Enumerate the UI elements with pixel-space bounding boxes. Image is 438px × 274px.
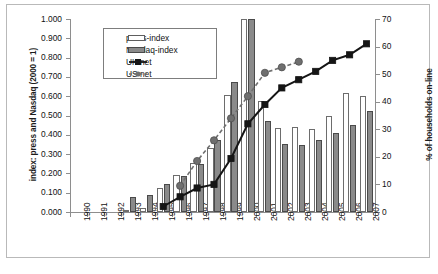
bar-nasdaq-index-2005 bbox=[333, 133, 339, 212]
bar-press-index-2004 bbox=[309, 129, 315, 212]
bar-press-index-2006 bbox=[343, 93, 349, 212]
bar-nasdaq-index-2003 bbox=[299, 145, 305, 212]
y-axis-right-tick bbox=[376, 74, 380, 75]
y-axis-left-tick bbox=[66, 58, 70, 59]
y-axis-right-tick-label: 20 bbox=[382, 151, 412, 161]
y-axis-left-tick-label: 0.400 bbox=[18, 129, 62, 139]
legend-key-press-index bbox=[128, 32, 146, 44]
y-axis-right-tick bbox=[376, 47, 380, 48]
legend-key-uk-net bbox=[128, 56, 146, 68]
chart-legend: press-index Nasdaq-index UK net bbox=[103, 28, 217, 79]
bar-nasdaq-index-2002 bbox=[282, 144, 288, 212]
y-axis-right-tick bbox=[376, 102, 380, 103]
y-axis-right-tick-label: 10 bbox=[382, 179, 412, 189]
y-axis-right-tick-label: 60 bbox=[382, 41, 412, 51]
bar-nasdaq-index-1994 bbox=[147, 195, 153, 212]
y-axis-left-tick-label: 0.000 bbox=[18, 207, 62, 217]
y-axis-right-tick-label: 30 bbox=[382, 124, 412, 134]
bar-nasdaq-index-1995 bbox=[164, 184, 170, 212]
bar-press-index-1995 bbox=[157, 188, 163, 212]
legend-key-us-net bbox=[128, 68, 146, 80]
y-axis-left-tick-label: 0.800 bbox=[18, 52, 62, 62]
y-axis-left-tick bbox=[66, 173, 70, 174]
bar-press-index-1998 bbox=[207, 148, 213, 212]
bar-press-index-1997 bbox=[190, 163, 196, 212]
x-axis-tick bbox=[70, 213, 71, 217]
bar-nasdaq-index-2000 bbox=[248, 19, 254, 212]
y-axis-left-tick-label: 0.600 bbox=[18, 91, 62, 101]
y-axis-right-tick bbox=[376, 19, 380, 20]
bar-press-index-2002 bbox=[275, 128, 281, 212]
bar-nasdaq-index-1997 bbox=[198, 164, 204, 212]
bar-nasdaq-index-2001 bbox=[265, 121, 271, 212]
y-axis-left-tick bbox=[66, 38, 70, 39]
bar-nasdaq-index-2004 bbox=[316, 140, 322, 212]
legend-key-nasdaq-index bbox=[128, 44, 146, 56]
y-axis-left-tick bbox=[66, 19, 70, 20]
y-axis-left-tick bbox=[66, 96, 70, 97]
bar-nasdaq-index-1993 bbox=[130, 197, 136, 212]
bar-press-index-2000 bbox=[241, 19, 247, 212]
bar-press-index-1996 bbox=[173, 175, 179, 212]
chart-page: index: press and Nasdaq (2000 = 1) % of … bbox=[0, 0, 438, 274]
x-axis-tick-label: 1991 bbox=[99, 202, 109, 221]
bar-press-index-1993 bbox=[123, 210, 129, 212]
bar-press-index-2005 bbox=[326, 116, 332, 212]
x-axis-tick-label: 1990 bbox=[82, 202, 92, 221]
bar-press-index-2001 bbox=[258, 101, 264, 212]
y-axis-left-tick-label: 0.200 bbox=[18, 168, 62, 178]
bar-nasdaq-index-2007 bbox=[367, 111, 373, 212]
y-axis-right-tick-label: 70 bbox=[382, 14, 412, 24]
y-axis-left-tick-label: 0.100 bbox=[18, 187, 62, 197]
bar-press-index-2003 bbox=[292, 127, 298, 212]
bar-nasdaq-index-1996 bbox=[181, 176, 187, 212]
bar-nasdaq-index-2006 bbox=[350, 125, 356, 212]
y-axis-right-tick bbox=[376, 157, 380, 158]
y-axis-left-tick bbox=[66, 193, 70, 194]
y-axis-left-tick bbox=[66, 135, 70, 136]
y-axis-left-tick-label: 0.300 bbox=[18, 149, 62, 159]
y-axis-left-tick-label: 0.500 bbox=[18, 110, 62, 120]
legend-item-us-net: US net bbox=[126, 68, 152, 80]
y-axis-left-tick-label: 0.900 bbox=[18, 33, 62, 43]
bar-nasdaq-index-1998 bbox=[214, 140, 220, 212]
y-axis-left-tick-label: 0.700 bbox=[18, 71, 62, 81]
y-axis-left-tick bbox=[66, 116, 70, 117]
y-axis-right-tick-label: 40 bbox=[382, 96, 412, 106]
y-axis-right-tick-label: 0 bbox=[382, 207, 412, 217]
y-axis-right-title: % of households on-line bbox=[425, 20, 434, 210]
bar-press-index-1999 bbox=[224, 95, 230, 212]
y-axis-right-tick bbox=[376, 184, 380, 185]
legend-item-press-index: press-index bbox=[126, 32, 169, 44]
y-axis-left-tick bbox=[66, 77, 70, 78]
bar-nasdaq-index-1999 bbox=[231, 82, 237, 212]
y-axis-left-tick bbox=[66, 154, 70, 155]
y-axis-left-line bbox=[70, 19, 71, 213]
bar-press-index-1994 bbox=[140, 208, 146, 212]
bar-press-index-2007 bbox=[360, 96, 366, 212]
legend-item-uk-net: UK net bbox=[126, 56, 152, 68]
y-axis-right-tick-label: 50 bbox=[382, 69, 412, 79]
y-axis-left-tick-label: 1.000 bbox=[18, 14, 62, 24]
y-axis-right-tick bbox=[376, 129, 380, 130]
legend-item-nasdaq-index: Nasdaq-index bbox=[126, 44, 178, 56]
